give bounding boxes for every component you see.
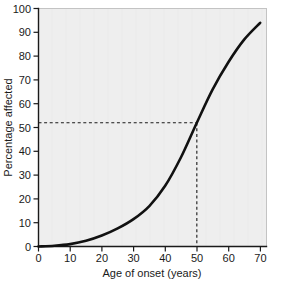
x-tick-label-60: 60 [223, 252, 235, 264]
x-tick-label-10: 10 [64, 252, 76, 264]
y-tick-label-80: 80 [19, 50, 31, 62]
x-tick-label-20: 20 [96, 252, 108, 264]
chart-figure: 100 90 80 70 60 50 40 30 20 10 0 Percent… [0, 0, 285, 281]
x-tick-label-70: 70 [254, 252, 266, 264]
y-tick-label-20: 20 [19, 193, 31, 205]
y-tick-label-50: 50 [19, 122, 31, 134]
percentage-affected-line-chart: 100 90 80 70 60 50 40 30 20 10 0 Percent… [0, 0, 285, 281]
y-tick-label-70: 70 [19, 74, 31, 86]
y-tick-label-60: 60 [19, 98, 31, 110]
x-axis-title: Age of onset (years) [102, 267, 201, 279]
y-tick-label-100: 100 [13, 3, 31, 15]
y-tick-label-10: 10 [19, 217, 31, 229]
x-axis: 0 10 20 30 40 50 60 70 Age of onset (yea… [35, 247, 266, 280]
y-tick-label-0: 0 [25, 241, 31, 253]
x-tick-label-0: 0 [35, 252, 41, 264]
y-tick-label-40: 40 [19, 145, 31, 157]
plot-background [39, 9, 267, 247]
y-axis-title: Percentage affected [2, 78, 14, 176]
x-tick-label-30: 30 [127, 252, 139, 264]
x-tick-label-50: 50 [191, 252, 203, 264]
y-tick-label-30: 30 [19, 169, 31, 181]
y-axis: 100 90 80 70 60 50 40 30 20 10 0 Percent… [2, 3, 39, 253]
y-tick-label-90: 90 [19, 26, 31, 38]
plot-area [39, 9, 267, 247]
x-tick-label-40: 40 [159, 252, 171, 264]
